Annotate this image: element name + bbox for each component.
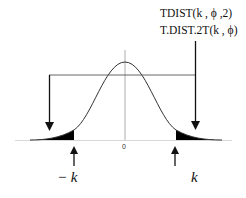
right-down-arrow-icon [191, 121, 200, 130]
left-tail-shade [30, 130, 74, 140]
negative-k-label: − k [57, 169, 78, 186]
origin-label: 0 [122, 143, 126, 150]
tdist-2t-function-label: T.DIST.2T(k , ϕ) [160, 24, 238, 36]
density-curve [30, 62, 222, 140]
pos-k-up-arrow-icon [171, 146, 179, 154]
left-down-arrow-icon [45, 122, 54, 131]
tdist-function-label: TDIST(k , ϕ ,2) [160, 7, 232, 19]
positive-k-label: k [191, 169, 198, 186]
neg-k-up-arrow-icon [70, 146, 78, 154]
